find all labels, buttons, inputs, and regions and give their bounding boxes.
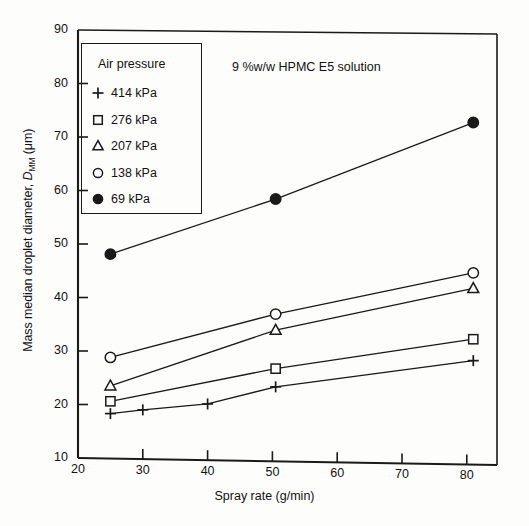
- circle-marker-glyph: [93, 168, 102, 177]
- y-tick-label-60: 60: [42, 183, 68, 197]
- legend-item-276-kpa[interactable]: 276 kPa: [91, 107, 203, 133]
- series-207-kpa: [105, 283, 479, 390]
- legend-item-414-kpa[interactable]: 414 kPa: [91, 80, 203, 106]
- x-axis-title: Spray rate (g/min): [0, 489, 529, 503]
- legend-item-138-kpa[interactable]: 138 kPa: [91, 160, 203, 186]
- series-line: [110, 288, 473, 385]
- y-axis-symbol: D: [21, 172, 35, 181]
- y-axis-unit: (μm): [21, 129, 35, 158]
- datapoint-414-kpa-4: [468, 355, 479, 366]
- series-line: [110, 339, 473, 401]
- x-tick-label-20: 20: [63, 462, 93, 476]
- plus-marker: [91, 86, 105, 100]
- filled-circle-marker-glyph: [93, 194, 102, 203]
- legend-label: 207 kPa: [111, 139, 157, 153]
- y-tick-label-20: 20: [42, 397, 68, 411]
- circle-marker: [91, 166, 105, 180]
- datapoint-138-kpa-1: [270, 309, 280, 319]
- square-marker: [91, 113, 105, 127]
- x-tick-label-40: 40: [193, 464, 223, 478]
- datapoint-276-kpa-2: [469, 335, 478, 344]
- x-tick-label-50: 50: [257, 465, 287, 479]
- y-tick-label-50: 50: [42, 236, 68, 250]
- x-tick-label-70: 70: [387, 467, 417, 481]
- y-tick-label-90: 90: [42, 22, 68, 36]
- datapoint-414-kpa-3: [270, 381, 281, 392]
- plot-annotation: 9 %w/w HPMC E5 solution: [232, 60, 381, 74]
- series-276-kpa: [106, 335, 478, 406]
- legend-label: 69 kPa: [111, 192, 150, 206]
- y-tick-label-70: 70: [42, 129, 68, 143]
- legend-item-69-kpa[interactable]: 69 kPa: [91, 186, 203, 212]
- series-138-kpa: [105, 268, 478, 363]
- datapoint-69-kpa-0: [105, 249, 115, 259]
- x-tick-label-80: 80: [452, 468, 482, 482]
- legend-title: Air pressure: [98, 57, 165, 71]
- legend-item-207-kpa[interactable]: 207 kPa: [91, 133, 203, 159]
- legend-label: 138 kPa: [111, 166, 157, 180]
- y-tick-label-30: 30: [42, 343, 68, 357]
- datapoint-414-kpa-0: [105, 408, 116, 419]
- plot-top-border: [78, 30, 497, 34]
- chart-figure: 102030405060708090 20304050607080 Mass m…: [0, 0, 529, 526]
- series-line: [110, 273, 473, 358]
- filled-circle-marker: [91, 192, 105, 206]
- plot-canvas: [0, 0, 529, 526]
- datapoint-138-kpa-0: [105, 352, 115, 362]
- datapoint-276-kpa-1: [271, 364, 280, 373]
- y-tick-label-80: 80: [42, 76, 68, 90]
- datapoint-414-kpa-2: [202, 398, 213, 409]
- datapoint-69-kpa-1: [270, 194, 280, 204]
- x-tick-label-30: 30: [128, 463, 158, 477]
- y-tick-label-40: 40: [42, 290, 68, 304]
- plus-marker-glyph: [93, 88, 104, 99]
- y-axis-title: Mass median droplet diameter, DMM (μm): [21, 90, 38, 390]
- y-axis-title-text: Mass median droplet diameter,: [21, 180, 35, 351]
- datapoint-414-kpa-1: [137, 404, 148, 415]
- legend-label: 276 kPa: [111, 113, 157, 127]
- y-axis-subscript: MM: [27, 158, 37, 172]
- series-line: [110, 361, 473, 414]
- legend-label: 414 kPa: [111, 86, 157, 100]
- datapoint-69-kpa-2: [468, 117, 478, 127]
- x-tick-label-60: 60: [322, 466, 352, 480]
- datapoint-276-kpa-0: [106, 397, 115, 406]
- triangle-marker-glyph: [93, 141, 103, 150]
- legend-box: Air pressure 414 kPa276 kPa207 kPa138 kP…: [81, 43, 202, 214]
- triangle-marker: [91, 139, 105, 153]
- square-marker-glyph: [94, 115, 103, 124]
- datapoint-138-kpa-2: [468, 268, 478, 278]
- series-414-kpa: [105, 355, 479, 419]
- datapoint-207-kpa-2: [468, 283, 479, 293]
